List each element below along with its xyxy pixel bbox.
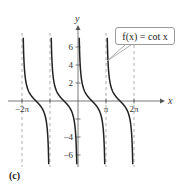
y-axis-label: y	[74, 13, 80, 24]
x-tick-label: π	[104, 104, 109, 114]
callout-pointer	[107, 45, 131, 61]
panel-label: (c)	[9, 170, 20, 181]
y-tick-label: −6	[63, 150, 73, 160]
x-axis-label: x	[167, 95, 173, 106]
x-tick-label: −2π	[15, 104, 30, 114]
y-tick-label: −4	[63, 132, 73, 142]
y-tick-label: 4	[69, 60, 74, 70]
y-axis-arrow-icon	[76, 25, 81, 30]
x-axis-arrow-icon	[160, 99, 165, 104]
y-tick-label: 2	[69, 78, 74, 88]
function-callout: f(x) = cot x	[115, 27, 175, 45]
x-tick-label: 2π	[129, 104, 139, 114]
y-tick-label: 6	[69, 42, 74, 52]
